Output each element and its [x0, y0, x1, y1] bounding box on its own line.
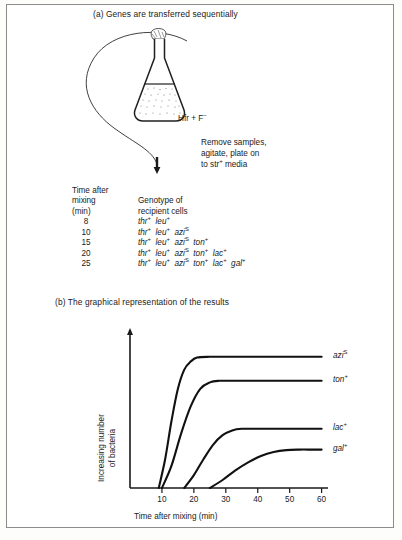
table-cell-genotype: thr+leu+aziSton+lac+	[138, 249, 231, 258]
genotype-allele: aziS	[174, 228, 188, 237]
note-line-3: to str+ media	[201, 159, 267, 170]
allele-superscript: S	[185, 258, 189, 264]
curve-gal	[210, 450, 322, 488]
genotype-allele: thr+	[138, 259, 151, 268]
allele-superscript: +	[205, 247, 208, 253]
curve-label-text: lac	[333, 423, 343, 432]
note-line-2: agitate, plate on	[201, 148, 267, 159]
table-header-genotype: Genotype of recipient cells	[138, 196, 188, 217]
note-line-1: Remove samples,	[201, 137, 267, 148]
genotype-allele: thr+	[138, 217, 151, 226]
flask-label-text: Hfr + F	[178, 114, 203, 123]
x-axis-label: Time after mixing (min)	[134, 512, 217, 521]
x-tick-label: 60	[310, 495, 334, 504]
curve-label-lac: lac+	[333, 423, 347, 432]
table-cell-time: 15	[62, 238, 110, 247]
genotype-allele: leu+	[156, 217, 170, 226]
panel-a-heading: (a) Genes are transferred sequentially	[93, 9, 238, 19]
genotype-allele: aziS	[174, 238, 188, 247]
allele-superscript: S	[185, 226, 189, 232]
genotype-allele: ton+	[193, 249, 208, 258]
remove-samples-note: Remove samples, agitate, plate on to str…	[201, 137, 267, 171]
flask-label-superscript: −	[203, 112, 206, 118]
panel-b-heading: (b) The graphical representation of the …	[55, 297, 229, 307]
allele-superscript: +	[166, 258, 169, 264]
allele-superscript: +	[148, 247, 151, 253]
table-cell-time: 10	[62, 228, 110, 237]
curve-label-superscript: S	[343, 349, 347, 355]
genotype-allele: ton+	[193, 259, 208, 268]
flask-contents-label: Hfr + F−	[178, 114, 207, 123]
table-cell-time: 20	[62, 249, 110, 258]
table-cell-time: 8	[62, 217, 110, 226]
x-tick-label: 30	[214, 495, 238, 504]
curve-label-text: gal	[333, 444, 344, 453]
allele-superscript: +	[166, 215, 169, 221]
genotype-allele: leu+	[156, 259, 170, 268]
table-cell-time: 25	[62, 259, 110, 268]
table-cell-genotype: thr+leu+aziS	[138, 228, 193, 237]
allele-superscript: +	[242, 258, 245, 264]
curve-label-ton: ton+	[333, 375, 348, 384]
genotype-allele: gal+	[231, 259, 245, 268]
table-cell-genotype: thr+leu+aziSton+lac+gal+	[138, 259, 250, 268]
allele-superscript: +	[166, 247, 169, 253]
table-header-time: Time after mixing (min)	[72, 186, 109, 217]
allele-superscript: +	[205, 258, 208, 264]
genotype-allele: aziS	[174, 259, 188, 268]
x-tick-label: 10	[150, 495, 174, 504]
allele-superscript: +	[148, 215, 151, 221]
allele-superscript: +	[166, 236, 169, 242]
genotype-allele: leu+	[156, 238, 170, 247]
genotype-allele: lac+	[213, 259, 227, 268]
figure-page: (a) Genes are transferred sequentially	[0, 0, 402, 540]
genotype-allele: thr+	[138, 228, 151, 237]
allele-superscript: S	[185, 247, 189, 253]
curve-label-superscript: +	[343, 421, 346, 427]
allele-superscript: +	[166, 226, 169, 232]
allele-superscript: +	[223, 247, 226, 253]
genotype-allele: leu+	[156, 249, 170, 258]
curve-label-superscript: +	[344, 373, 347, 379]
allele-superscript: +	[148, 226, 151, 232]
flask-plug	[151, 29, 166, 40]
genotype-allele: ton+	[193, 238, 208, 247]
curve-label-text: ton	[333, 375, 344, 384]
table-cell-genotype: thr+leu+aziSton+	[138, 238, 213, 247]
genotype-allele: leu+	[156, 228, 170, 237]
x-tick-label: 20	[182, 495, 206, 504]
curve-label-text: azi	[333, 351, 343, 360]
y-axis-arrowhead	[127, 328, 133, 335]
genotype-allele: aziS	[174, 249, 188, 258]
curve-label-gal: gal+	[333, 444, 347, 453]
allele-superscript: +	[205, 236, 208, 242]
allele-superscript: +	[148, 236, 151, 242]
genotype-allele: lac+	[213, 249, 227, 258]
curve-label-azi: aziS	[333, 351, 347, 360]
genotype-allele: thr+	[138, 249, 151, 258]
allele-superscript: S	[185, 236, 189, 242]
curve-ton	[162, 381, 322, 488]
allele-superscript: +	[223, 258, 226, 264]
genotype-allele: thr+	[138, 238, 151, 247]
erlenmeyer-flask	[130, 28, 310, 138]
x-tick-label: 40	[246, 495, 270, 504]
x-tick-label: 50	[278, 495, 302, 504]
curve-label-superscript: +	[344, 442, 347, 448]
table-cell-genotype: thr+leu+	[138, 217, 174, 226]
allele-superscript: +	[148, 258, 151, 264]
curve-lac	[184, 429, 321, 488]
